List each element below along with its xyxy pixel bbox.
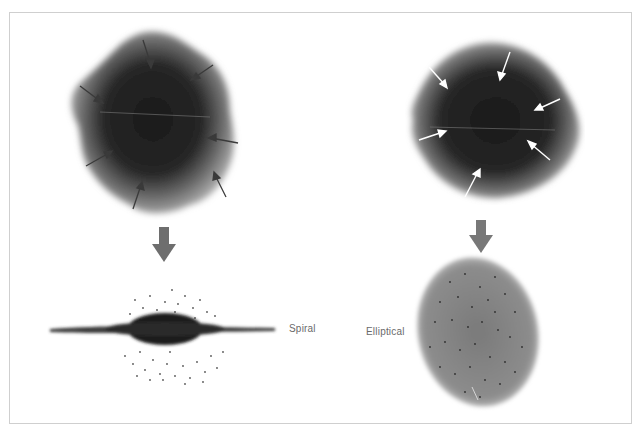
right-gas-cloud [405, 35, 585, 205]
down-arrow-left [152, 227, 176, 263]
spiral-label: Spiral [289, 323, 316, 334]
spiral-galaxy [45, 280, 285, 390]
elliptical-galaxy [410, 252, 550, 412]
down-arrow-right [469, 220, 493, 254]
left-gas-cloud [60, 25, 260, 220]
elliptical-label: Elliptical [366, 326, 405, 337]
